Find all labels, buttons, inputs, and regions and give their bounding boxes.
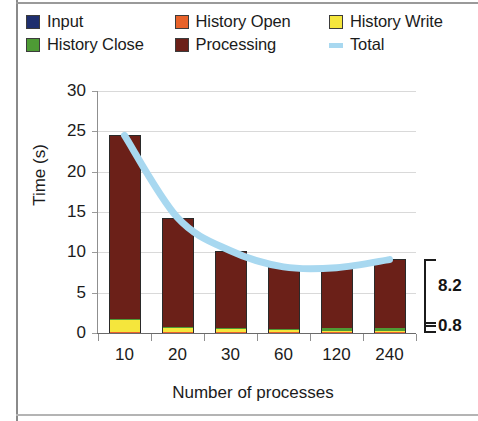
bar-segment[interactable]	[215, 332, 247, 333]
bar-segment[interactable]	[268, 267, 300, 329]
y-tick-label: 0	[48, 324, 86, 341]
x-tick-mark	[416, 334, 417, 341]
bar-segment[interactable]	[162, 218, 194, 328]
y-tick-label: 5	[48, 284, 86, 301]
bracket-lower-label: 0.8	[438, 316, 462, 336]
x-tick-mark	[257, 334, 258, 341]
gridline	[98, 172, 416, 173]
y-tick-label: 15	[48, 203, 86, 220]
gridline	[98, 252, 416, 253]
bar-segment[interactable]	[109, 332, 141, 333]
bracket-upper	[424, 259, 436, 327]
y-axis-title: Time (s)	[30, 105, 50, 245]
gridline	[98, 212, 416, 213]
bar-segment[interactable]	[374, 328, 406, 331]
bar-segment[interactable]	[321, 328, 353, 330]
bar-segment[interactable]	[109, 320, 141, 332]
bar-segment[interactable]	[215, 251, 247, 328]
bar-segment[interactable]	[215, 328, 247, 329]
x-tick-mark	[98, 334, 99, 341]
x-tick-label: 30	[204, 345, 258, 365]
gridline	[98, 91, 416, 92]
chart-figure: Input History Open History Write History…	[0, 0, 478, 421]
bar-segment[interactable]	[268, 332, 300, 333]
x-tick-label: 10	[98, 345, 152, 365]
x-tick-label: 20	[151, 345, 205, 365]
y-tick-label: 20	[48, 163, 86, 180]
bracket-upper-label: 8.2	[438, 276, 462, 296]
y-tick-label: 10	[48, 243, 86, 260]
y-axis-line	[97, 91, 98, 334]
x-tick-label: 120	[310, 345, 364, 365]
plot-area: Time (s) Number of processes 05101520253…	[0, 0, 478, 421]
bar-segment[interactable]	[162, 332, 194, 333]
x-tick-mark	[363, 334, 364, 341]
gridline	[98, 131, 416, 132]
x-tick-mark	[204, 334, 205, 341]
bar-segment[interactable]	[374, 259, 406, 328]
x-tick-mark	[151, 334, 152, 341]
y-tick-label: 30	[48, 82, 86, 99]
bar-segment[interactable]	[162, 327, 194, 328]
bracket-lower	[424, 322, 436, 333]
gridline	[98, 293, 416, 294]
x-tick-label: 60	[257, 345, 311, 365]
y-tick-label: 25	[48, 122, 86, 139]
x-tick-mark	[310, 334, 311, 341]
bar-segment[interactable]	[321, 268, 353, 329]
bar-segment[interactable]	[374, 331, 406, 332]
bar-segment[interactable]	[109, 135, 141, 319]
bar-segment[interactable]	[162, 328, 194, 332]
bar-segment[interactable]	[321, 331, 353, 332]
bar-segment[interactable]	[321, 332, 353, 333]
bar-segment[interactable]	[268, 329, 300, 330]
bar-segment[interactable]	[109, 319, 141, 320]
x-tick-label: 240	[363, 345, 417, 365]
